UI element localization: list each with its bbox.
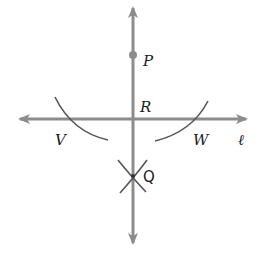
label-q: Q <box>143 168 155 186</box>
label-r: R <box>139 98 151 116</box>
point-p <box>129 51 137 59</box>
point-q <box>131 174 135 178</box>
label-p: P <box>142 52 154 70</box>
construction-diagram: P R V W ℓ Q <box>0 0 269 258</box>
label-v: V <box>55 131 68 149</box>
label-line-l: ℓ <box>238 131 244 149</box>
label-w: W <box>193 131 210 149</box>
